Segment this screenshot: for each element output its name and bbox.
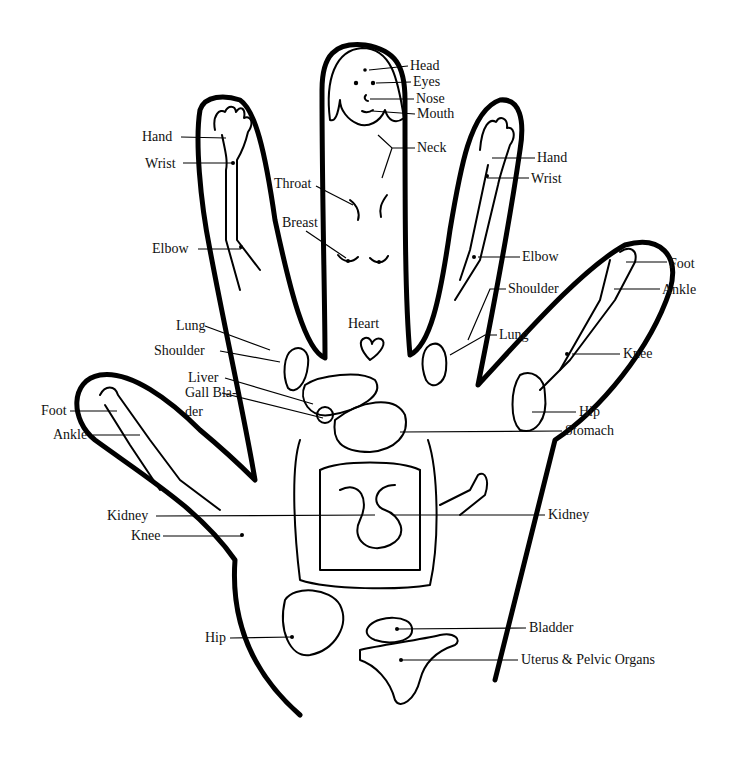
label-kidney-left: Kidney	[107, 508, 148, 524]
label-lung-left: Lung	[176, 318, 206, 334]
label-ankle-right: Ankle	[662, 282, 696, 298]
label-shoulder-right: Shoulder	[508, 281, 559, 297]
label-lung-right: Lung	[499, 327, 529, 343]
hand-outline-drawing	[0, 0, 745, 757]
label-uterus: Uterus & Pelvic Organs	[521, 652, 655, 668]
label-gall-bladder-cont: der	[185, 404, 203, 420]
label-knee-left: Knee	[131, 528, 161, 544]
label-shoulder-left: Shoulder	[154, 343, 205, 359]
label-heart: Heart	[348, 316, 379, 332]
label-wrist-right: Wrist	[531, 171, 562, 187]
label-hip-right: Hip	[579, 404, 600, 420]
label-knee-right: Knee	[623, 346, 653, 362]
label-gall-bladder: Gall Bla-	[185, 385, 237, 401]
label-bladder: Bladder	[529, 620, 573, 636]
label-head: Head	[410, 58, 440, 74]
label-foot-left: Foot	[41, 403, 67, 419]
label-stomach: Stomach	[565, 423, 614, 439]
label-ankle-left: Ankle	[53, 427, 87, 443]
label-hip-left: Hip	[205, 630, 226, 646]
label-elbow-left: Elbow	[152, 241, 189, 257]
label-liver: Liver	[188, 370, 218, 386]
label-neck: Neck	[417, 140, 447, 156]
label-mouth: Mouth	[417, 106, 454, 122]
label-throat: Throat	[274, 176, 311, 192]
label-wrist-left: Wrist	[145, 156, 176, 172]
label-breast: Breast	[282, 215, 318, 231]
label-hand-left: Hand	[142, 129, 172, 145]
label-nose: Nose	[416, 91, 445, 107]
reflexology-diagram: HeadEyesNoseMouthNeckThroatBreastHandWri…	[0, 0, 745, 757]
label-kidney-right: Kidney	[548, 507, 589, 523]
label-foot-right: Foot	[669, 256, 695, 272]
label-elbow-right: Elbow	[522, 249, 559, 265]
label-hand-right: Hand	[537, 150, 567, 166]
label-eyes: Eyes	[413, 74, 440, 90]
